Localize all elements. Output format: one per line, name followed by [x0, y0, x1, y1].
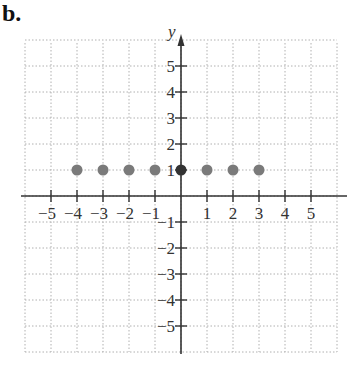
data-point	[254, 165, 265, 176]
data-point	[202, 165, 213, 176]
data-point	[124, 165, 135, 176]
y-tick-label: 3	[167, 109, 176, 128]
x-tick-label: 5	[307, 204, 316, 223]
y-axis-label: y	[166, 22, 176, 41]
y-tick-label: 2	[167, 135, 176, 154]
x-tick-label: 2	[229, 204, 238, 223]
data-point	[176, 165, 187, 176]
x-tick-label: −2	[116, 204, 134, 223]
y-tick-label: −2	[157, 239, 175, 258]
y-tick-label: 4	[167, 83, 176, 102]
x-tick-label: −5	[38, 204, 56, 223]
data-point	[98, 165, 109, 176]
x-tick-label: 3	[255, 204, 264, 223]
y-tick-label: −3	[157, 265, 175, 284]
y-tick-label: −5	[157, 317, 175, 336]
y-tick-label: 5	[167, 57, 176, 76]
x-tick-label: 1	[203, 204, 212, 223]
y-tick-label: −1	[157, 213, 175, 232]
data-point	[72, 165, 83, 176]
y-tick-label: −4	[157, 291, 176, 310]
x-tick-label: 4	[281, 204, 290, 223]
y-tick-label: 1	[167, 161, 176, 180]
data-point	[150, 165, 161, 176]
x-tick-label: −4	[64, 204, 83, 223]
data-point	[228, 165, 239, 176]
x-tick-label: −3	[90, 204, 108, 223]
coordinate-plane: y−5−4−3−2−11234554321−1−2−3−4−5	[0, 0, 347, 366]
